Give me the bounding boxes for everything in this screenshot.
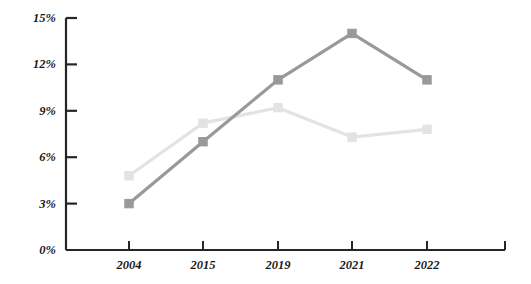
series-line-series-dark	[129, 33, 427, 203]
x-axis-tick-label: 2015	[191, 258, 216, 273]
y-axis-tick-label: 12%	[8, 57, 56, 72]
x-axis-tick-label: 2022	[415, 258, 440, 273]
chart-series-group	[125, 29, 431, 208]
data-point-marker	[274, 104, 282, 112]
y-axis-tick-label: 9%	[8, 103, 56, 118]
data-point-marker	[199, 119, 207, 127]
chart-axes	[66, 18, 505, 250]
data-point-marker	[199, 138, 207, 146]
y-axis-tick-label: 3%	[8, 196, 56, 211]
data-point-marker	[125, 199, 133, 207]
data-point-marker	[348, 133, 356, 141]
data-point-marker	[423, 125, 431, 133]
x-axis-tick-label: 2019	[266, 258, 291, 273]
x-axis-tick-label: 2004	[117, 258, 142, 273]
data-point-marker	[348, 29, 356, 37]
y-axis-tick-label: 0%	[8, 243, 56, 258]
data-point-marker	[274, 76, 282, 84]
data-point-marker	[125, 172, 133, 180]
data-point-marker	[423, 76, 431, 84]
line-chart: 15%12%9%6%3%0% 20042015201920212022	[0, 0, 531, 284]
chart-plot-area	[0, 0, 531, 284]
x-axis-tick-label: 2021	[340, 258, 365, 273]
y-axis-tick-label: 6%	[8, 150, 56, 165]
y-axis-tick-label: 15%	[8, 11, 56, 26]
